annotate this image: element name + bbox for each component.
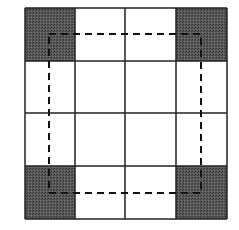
grid-diagram [0,0,239,230]
